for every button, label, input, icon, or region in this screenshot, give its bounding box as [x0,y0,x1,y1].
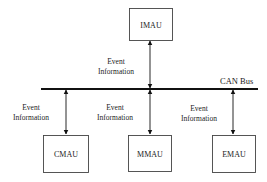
node-imau: IMAU [130,9,173,41]
can-bus-label: CAN Bus [220,76,253,86]
node-emau: EMAU [213,136,256,173]
node-mmau: MMAU [129,136,172,172]
can-bus-diagram: CAN Bus IMAU Event Information Event Inf… [0,0,267,182]
edge-label-emau: Event Information [181,104,217,123]
svg-text:Information: Information [97,113,133,122]
node-cmau-label: CMAU [54,150,78,159]
node-emau-label: EMAU [222,150,246,159]
edge-label-imau: Event Information [98,57,134,76]
svg-text:Event: Event [190,104,208,113]
svg-text:Event: Event [22,103,40,112]
edge-label-cmau: Event Information [13,103,49,122]
svg-text:Event: Event [107,57,125,66]
node-imau-label: IMAU [140,21,162,30]
svg-text:Information: Information [181,114,217,123]
svg-text:Information: Information [98,67,134,76]
node-cmau: CMAU [44,136,89,173]
edge-label-mmau: Event Information [97,103,133,122]
svg-text:Information: Information [13,113,49,122]
svg-text:Event: Event [106,103,124,112]
node-mmau-label: MMAU [137,150,163,159]
